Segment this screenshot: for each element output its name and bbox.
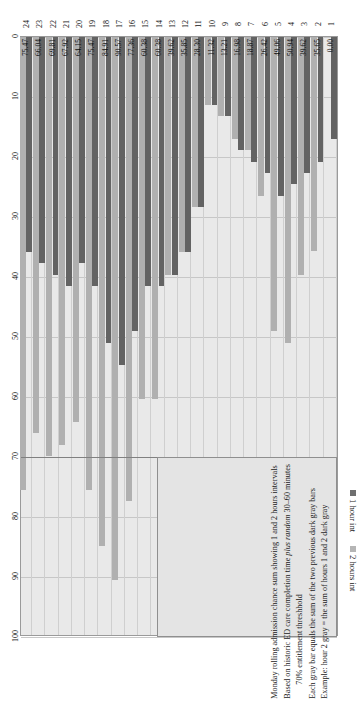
value-axis-tick: 40 <box>11 266 20 286</box>
value-axis-tick: 70 <box>11 446 20 466</box>
data-label: 35.65 <box>311 39 324 56</box>
light-square-icon <box>350 546 356 552</box>
category-axis-tick: 17 <box>113 14 126 34</box>
data-label: 75.47 <box>85 39 98 56</box>
bar-1-hour-int <box>145 37 151 286</box>
data-label: 60.38 <box>152 39 165 56</box>
bar-2-hours-int <box>192 37 198 207</box>
data-label: 69.81 <box>46 39 59 56</box>
category-axis-tick: 10 <box>206 14 219 34</box>
category-axis-tick: 16 <box>126 14 139 34</box>
bar-1-hour-int <box>265 37 271 173</box>
category-axis-tick: 20 <box>73 14 86 34</box>
data-label: 64.15 <box>72 39 85 56</box>
data-label: 60.38 <box>138 39 151 56</box>
bar-1-hour-int <box>106 37 112 343</box>
bar-2-hours-int <box>298 37 304 275</box>
plot-area: 0.0035.6539.6250.9449.0626.4218.8716.981… <box>20 36 338 636</box>
value-axis-tick: 80 <box>11 506 20 526</box>
bar-1-hour-int <box>26 37 32 252</box>
bar-2-hours-int <box>33 37 39 433</box>
annotation-box: Monday rolling admission chance sum show… <box>157 457 337 637</box>
category-axis-tick: 15 <box>139 14 152 34</box>
bar-2-hours-int <box>73 37 79 422</box>
category-axis-tick: 19 <box>86 14 99 34</box>
data-label: 11.32 <box>205 39 218 56</box>
category-axis-tick: 4 <box>285 14 298 34</box>
bar-1-hour-int <box>278 37 284 196</box>
data-label: 50.94 <box>284 39 297 56</box>
data-label: 90.57 <box>112 39 125 56</box>
annotation-line-2b: 30–60 minutes <box>283 464 292 515</box>
category-axis-tick: 12 <box>179 14 192 34</box>
bar-1-hour-int <box>79 37 85 263</box>
data-label: 67.92 <box>59 39 72 56</box>
data-label: 26.42 <box>258 39 271 56</box>
category-axis-tick: 1 <box>325 14 338 34</box>
category-axis-tick: 6 <box>259 14 272 34</box>
data-label: 16.98 <box>231 39 244 56</box>
category-axis-tick: 24 <box>20 14 33 34</box>
category-axis-tick: 18 <box>100 14 113 34</box>
data-label: 35.85 <box>178 39 191 56</box>
category-axis: 123456789101112131415161718192021222324 <box>20 14 338 34</box>
category-axis-tick: 14 <box>153 14 166 34</box>
value-axis-tick: 0 <box>11 26 20 46</box>
data-label: 39.62 <box>165 39 178 56</box>
category-axis-tick: 3 <box>298 14 311 34</box>
category-axis-tick: 11 <box>192 14 205 34</box>
bar-2-hours-int <box>126 37 132 501</box>
data-label: 13.21 <box>218 39 231 56</box>
value-axis-tick: 60 <box>11 386 20 406</box>
data-label: 39.62 <box>297 39 310 56</box>
bar-2-hours-int <box>271 37 277 331</box>
annotation-line-4: Each gray bar equals the sum of the two … <box>307 464 320 699</box>
category-axis-tick: 5 <box>272 14 285 34</box>
legend-label-2: 2 hours int <box>348 555 358 591</box>
category-axis-tick: 13 <box>166 14 179 34</box>
data-label: 18.87 <box>244 39 257 56</box>
bar-2-hours-int <box>86 37 92 490</box>
legend-item-2-hours-int: 2 hours int <box>348 546 358 591</box>
bar-row: 75.47 <box>19 37 32 635</box>
data-label: 84.91 <box>99 39 112 56</box>
bar-2-hours-int <box>152 37 158 399</box>
data-label: 77.36 <box>125 39 138 56</box>
bar-row: 67.92 <box>59 37 72 635</box>
annotation-line-2a: Based on historic ED care completion tim… <box>283 556 292 699</box>
bar-1-hour-int <box>132 37 138 331</box>
bar-2-hours-int <box>179 37 185 252</box>
chart-legend: 1 hour int 2 hours int <box>348 490 358 591</box>
category-axis-tick: 21 <box>60 14 73 34</box>
category-axis-tick: 2 <box>312 14 325 34</box>
dark-square-icon <box>350 490 356 496</box>
bar-1-hour-int <box>159 37 165 286</box>
category-axis-tick: 8 <box>232 14 245 34</box>
data-label: 0.00 <box>324 39 337 52</box>
category-axis-tick: 23 <box>33 14 46 34</box>
value-axis-tick: 20 <box>11 146 20 166</box>
bar-2-hours-int <box>20 37 26 490</box>
bar-1-hour-int <box>53 37 59 275</box>
bar-1-hour-int <box>291 37 297 184</box>
value-axis-tick: 90 <box>11 566 20 586</box>
bar-2-hours-int <box>165 37 171 275</box>
bar-1-hour-int <box>119 37 125 365</box>
annotation-line-3: 70% entitlement threshhold <box>294 464 307 699</box>
legend-label-1: 1 hour int <box>348 499 358 532</box>
bar-1-hour-int <box>39 37 45 263</box>
annotation-line-1: Monday rolling admission chance sum show… <box>269 464 282 699</box>
value-axis: 0102030405060708090100 <box>2 36 20 636</box>
bar-2-hours-int <box>46 37 52 456</box>
bar-row: 69.81 <box>46 37 59 635</box>
value-axis-tick: 100 <box>11 626 20 646</box>
bar-2-hours-int <box>311 37 317 251</box>
value-axis-tick: 10 <box>11 86 20 106</box>
bar-row: 77.36 <box>125 37 138 635</box>
bar-1-hour-int <box>66 37 72 286</box>
bar-row: 84.91 <box>99 37 112 635</box>
category-axis-tick: 22 <box>47 14 60 34</box>
annotation-line-2-italic: plus random <box>283 515 292 556</box>
